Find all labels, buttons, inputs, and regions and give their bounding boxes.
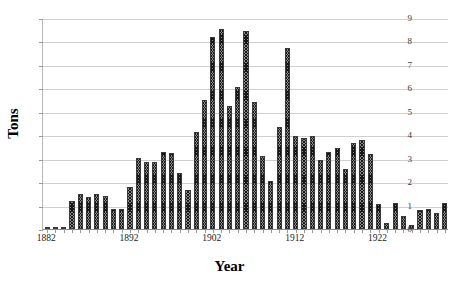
bar [235, 87, 240, 229]
bar [210, 37, 215, 229]
x-axis-tick-mark [445, 229, 446, 233]
x-axis-tick-mark [180, 229, 181, 233]
bar [127, 187, 132, 229]
bar [343, 169, 348, 229]
bar [69, 201, 74, 229]
x-axis-tick-label: 1882 [26, 234, 66, 244]
bar [144, 162, 149, 229]
y-axis-tick-label: 9 [398, 14, 412, 23]
y-axis-tick-label: 3 [398, 155, 412, 164]
bar [293, 136, 298, 229]
x-axis-tick-label: 1922 [358, 234, 398, 244]
x-axis-tick-mark [188, 229, 189, 233]
y-axis-tick-mark [39, 89, 43, 90]
x-axis-tick-mark [312, 229, 313, 233]
y-axis-tick-mark [39, 136, 43, 137]
x-axis-tick-label: 1912 [275, 234, 315, 244]
bar [335, 148, 340, 229]
bar [78, 194, 83, 229]
bar [185, 190, 190, 229]
x-axis-tick-mark [72, 229, 73, 233]
x-axis-tick-mark [64, 229, 65, 233]
bar [169, 153, 174, 229]
bar [111, 209, 116, 229]
y-axis-tick-label: 2 [398, 178, 412, 187]
y-axis-title: Tons [2, 78, 24, 168]
x-axis-tick-mark [80, 229, 81, 233]
y-axis-tick-label: 4 [398, 131, 412, 140]
bar [417, 210, 422, 229]
bar [86, 197, 91, 229]
bar [177, 173, 182, 229]
y-axis-tick-label: 5 [398, 108, 412, 117]
x-axis-title: Year [0, 258, 459, 275]
y-axis-title-label: Tons [6, 108, 21, 138]
bar [277, 127, 282, 229]
bar [252, 102, 257, 229]
x-axis-tick-mark [345, 229, 346, 233]
y-axis-tick-mark [39, 207, 43, 208]
bar [318, 160, 323, 229]
bar [368, 154, 373, 229]
x-axis-tick-mark [246, 229, 247, 233]
y-axis-tick-label: 0 [398, 225, 412, 234]
bar [376, 204, 381, 229]
bar [202, 100, 207, 229]
y-axis-tick-mark [39, 42, 43, 43]
y-axis-tick-mark [39, 66, 43, 67]
x-axis-tick-mark [196, 229, 197, 233]
bar [268, 181, 273, 229]
x-axis-tick-mark [329, 229, 330, 233]
x-axis-tick-mark [171, 229, 172, 233]
bar [136, 158, 141, 230]
y-axis-tick-mark [39, 230, 43, 231]
x-axis-tick-mark [362, 229, 363, 233]
bar [152, 162, 157, 229]
x-axis-tick-mark [321, 229, 322, 233]
y-axis-tick-label: 8 [398, 37, 412, 46]
bar [103, 196, 108, 229]
bar-chart: Tons Year 012345678918821892190219121922 [0, 0, 459, 287]
x-axis-tick-mark [354, 229, 355, 233]
x-axis-tick-mark [254, 229, 255, 233]
y-axis-tick-mark [39, 160, 43, 161]
bar [301, 138, 306, 229]
x-axis-tick-mark [147, 229, 148, 233]
y-axis-tick-mark [39, 19, 43, 20]
bar [434, 213, 439, 229]
bar [260, 156, 265, 229]
bar [219, 29, 224, 229]
bar [285, 48, 290, 229]
plot-area [42, 19, 448, 230]
bar [194, 132, 199, 229]
x-axis-tick-mark [428, 229, 429, 233]
x-axis-tick-label: 1902 [192, 234, 232, 244]
x-axis-tick-mark [420, 229, 421, 233]
x-axis-tick-label: 1892 [109, 234, 149, 244]
y-axis-tick-label: 7 [398, 61, 412, 70]
bar [393, 203, 398, 229]
x-axis-tick-mark [163, 229, 164, 233]
x-axis-tick-mark [89, 229, 90, 233]
bar [243, 31, 248, 229]
x-axis-tick-mark [229, 229, 230, 233]
bar [161, 152, 166, 229]
x-axis-tick-mark [97, 229, 98, 233]
bar [94, 194, 99, 229]
x-axis-tick-mark [263, 229, 264, 233]
bar [359, 140, 364, 229]
x-axis-tick-mark [437, 229, 438, 233]
bar [442, 203, 447, 229]
x-axis-tick-mark [105, 229, 106, 233]
y-axis-tick-label: 1 [398, 202, 412, 211]
x-axis-tick-mark [337, 229, 338, 233]
bar [426, 209, 431, 229]
y-axis-tick-mark [39, 183, 43, 184]
bar [351, 143, 356, 229]
x-axis-tick-mark [304, 229, 305, 233]
y-axis-tick-label: 6 [398, 84, 412, 93]
bar [310, 136, 315, 229]
x-axis-tick-mark [271, 229, 272, 233]
x-axis-title-label: Year [215, 258, 245, 274]
gridline [43, 19, 448, 20]
